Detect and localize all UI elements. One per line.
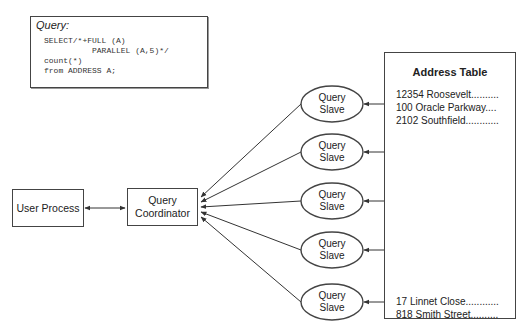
query-slave-label: Query Slave: [301, 140, 363, 164]
address-row: 100 Oracle Parkway....: [396, 102, 496, 113]
query-slave-label: Query Slave: [301, 290, 363, 314]
slave-coordinator-connector: [201, 217, 301, 302]
query-coordinator-label: Query Coordinator: [135, 194, 190, 220]
slave-coordinator-connector: [201, 212, 301, 250]
slave-coordinator-connector: [201, 104, 301, 197]
address-table-box: Address Table 12354 Roosevelt.......... …: [384, 52, 516, 319]
query-coordinator-box: Query Coordinator: [127, 188, 198, 226]
address-row: 17 Linnet Close............: [396, 296, 499, 307]
address-table-title: Address Table: [385, 66, 515, 78]
address-row: 12354 Roosevelt..........: [396, 89, 499, 100]
query-title: Query:: [36, 19, 69, 31]
address-row: 2102 Southfield............: [396, 115, 499, 126]
query-slave-label: Query Slave: [301, 92, 363, 116]
query-slave-label: Query Slave: [301, 238, 363, 262]
slave-coordinator-connector: [201, 201, 301, 207]
slave-coordinator-connector: [201, 152, 301, 202]
address-row: 818 Smith Street..........: [396, 309, 498, 320]
query-slave-label: Query Slave: [301, 189, 363, 213]
user-process-label: User Process: [16, 202, 79, 215]
query-box: Query: SELECT/*+FULL (A) PARALLEL (A,5)*…: [30, 16, 208, 88]
user-process-box: User Process: [12, 189, 84, 227]
query-code: SELECT/*+FULL (A) PARALLEL (A,5)*/ count…: [44, 36, 169, 76]
